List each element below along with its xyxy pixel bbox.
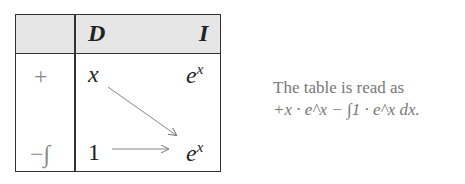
diagonal-arrow-icon	[108, 87, 176, 135]
caption: The table is read as +x · e^x − ∫1 · e^x…	[273, 77, 420, 121]
caption-line2: +x · e^x − ∫1 · e^x dx.	[273, 99, 420, 121]
caption-line1: The table is read as	[273, 77, 420, 99]
di-table: D I + x ex −∫ 1 ex	[15, 14, 221, 172]
arrows	[16, 15, 222, 173]
